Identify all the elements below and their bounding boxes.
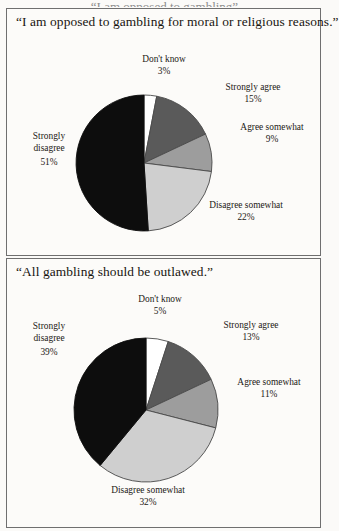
pie-2-value-disagree-somewhat: 32% <box>89 497 207 509</box>
pie-2-value-dont-know: 5% <box>115 306 205 318</box>
pie-2-label-strongly-agree: Strongly agree 13% <box>203 320 299 343</box>
pie-2-value-strongly-agree: 13% <box>203 332 299 344</box>
pie-1-value-dont-know: 3% <box>119 66 209 78</box>
pie-2-label-strongly-agree-text: Strongly agree <box>224 320 279 330</box>
pie-2-label-strongly-disagree: Strongly disagree 39% <box>13 321 85 359</box>
pie-1-value-disagree-somewhat: 22% <box>187 212 305 224</box>
pie-2-value-strongly-disagree: 39% <box>13 347 85 359</box>
pie-2-label-dont-know-text: Don't know <box>138 294 182 304</box>
pie-1-label-strongly-disagree: Strongly disagree 51% <box>13 131 85 169</box>
chart-panel-1: “I am opposed to gambling for moral or r… <box>6 8 321 256</box>
pie-1-value-agree-somewhat: 9% <box>222 134 322 146</box>
pie-2-label-disagree-somewhat: Disagree somewhat 32% <box>89 485 207 508</box>
pie-1-slice-strongly-disagree[interactable] <box>76 95 148 231</box>
pie-2-slices <box>74 338 218 482</box>
pie-1-value-strongly-disagree: 51% <box>13 157 85 169</box>
pie-1-label-strongly-disagree-line1: Strongly <box>33 131 65 141</box>
pie-1-label-dont-know: Don't know 3% <box>119 54 209 77</box>
pie-1-label-strongly-agree-text: Strongly agree <box>226 82 281 92</box>
pie-1-label-disagree-somewhat-text: Disagree somewhat <box>209 200 283 210</box>
pie-2-label-agree-somewhat: Agree somewhat 11% <box>219 377 319 400</box>
pie-2-label-agree-somewhat-text: Agree somewhat <box>237 377 300 387</box>
pie-2-value-agree-somewhat: 11% <box>219 389 319 401</box>
pie-1-label-dont-know-text: Don't know <box>142 54 186 64</box>
pie-1-label-disagree-somewhat: Disagree somewhat 22% <box>187 200 305 223</box>
pie-1-label-agree-somewhat: Agree somewhat 9% <box>222 122 322 145</box>
pie-1-label-agree-somewhat-text: Agree somewhat <box>240 122 303 132</box>
pie-2-label-strongly-disagree-line2: disagree <box>33 333 64 343</box>
pie-1-label-strongly-disagree-line2: disagree <box>33 143 64 153</box>
pie-1-label-strongly-agree: Strongly agree 15% <box>205 82 301 105</box>
page-top-cutoff-text: “I am opposed to gambling” <box>0 0 329 7</box>
pie-1-value-strongly-agree: 15% <box>205 94 301 106</box>
pie-2-label-strongly-disagree-line1: Strongly <box>33 321 65 331</box>
pie-2-label-disagree-somewhat-text: Disagree somewhat <box>111 485 185 495</box>
chart-panel-2: “All gambling should be outlawed.” Don't… <box>6 258 321 528</box>
pie-2-label-dont-know: Don't know 5% <box>115 294 205 317</box>
